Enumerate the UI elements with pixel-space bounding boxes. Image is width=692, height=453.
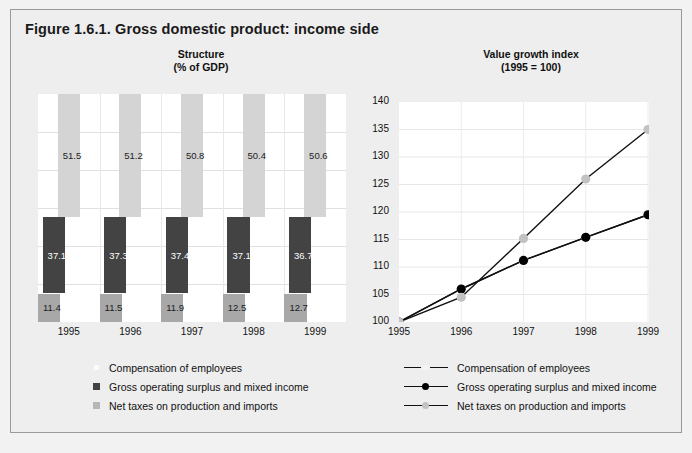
bar-value-label: 51.5 <box>58 150 82 161</box>
bar-segment: 36.7 <box>289 217 311 293</box>
legend-line-marker-icon <box>404 401 448 410</box>
right-panel-title-line2: (1995 = 100) <box>441 61 621 74</box>
figure-title: Figure 1.6.1. Gross domestic product: in… <box>25 21 379 37</box>
legend-item[interactable]: Gross operating surplus and mixed income <box>93 377 309 396</box>
bar-value-label: 37.1 <box>227 250 251 261</box>
legend-item[interactable]: Gross operating surplus and mixed income <box>404 377 657 396</box>
left-panel-title-line1: Structure <box>121 48 281 61</box>
y-axis-tick-label: 100 <box>355 315 389 326</box>
bar-value-label: 37.3 <box>104 250 128 261</box>
bar-segment: 51.2 <box>119 94 141 217</box>
x-axis-label: 1995 <box>38 326 100 337</box>
legend-item[interactable]: Compensation of employees <box>404 358 657 377</box>
y-axis-tick-label: 110 <box>355 260 389 271</box>
x-axis-label: 1995 <box>375 326 423 337</box>
legend-line-marker-icon <box>404 382 448 391</box>
legend-growth-index: Compensation of employeesGross operating… <box>404 358 657 415</box>
bar-value-label: 11.9 <box>161 302 184 313</box>
legend-structure: Compensation of employeesGross operating… <box>93 358 309 415</box>
y-axis-tick-label: 105 <box>355 288 389 299</box>
x-axis-label: 1999 <box>624 326 672 337</box>
bar-segment: 11.9 <box>161 294 183 323</box>
legend-item[interactable]: Net taxes on production and imports <box>93 396 309 415</box>
legend-item[interactable]: Net taxes on production and imports <box>404 396 657 415</box>
bar-segment: 12.5 <box>223 294 245 323</box>
legend-line-marker-icon <box>404 363 448 372</box>
bar-segment: 37.1 <box>43 217 65 293</box>
bar-value-label: 50.4 <box>243 150 267 161</box>
y-axis-tick-label: 130 <box>355 150 389 161</box>
bar-segment: 37.1 <box>227 217 249 293</box>
bar-value-label: 36.7 <box>289 250 313 261</box>
y-axis-tick-label: 115 <box>355 233 389 244</box>
data-point-marker <box>457 284 466 293</box>
bar-group: 51.237.311.5 <box>100 94 162 322</box>
legend-label: Gross operating surplus and mixed income <box>457 381 657 393</box>
data-point-marker <box>581 233 590 242</box>
x-axis-label: 1996 <box>437 326 485 337</box>
x-axis-label: 1996 <box>100 326 162 337</box>
y-axis-tick-label: 135 <box>355 123 389 134</box>
bar-segment: 37.3 <box>104 217 126 293</box>
legend-item[interactable]: Compensation of employees <box>93 358 309 377</box>
y-axis-tick-label: 125 <box>355 178 389 189</box>
left-panel-title: Structure (% of GDP) <box>121 48 281 74</box>
bar-value-label: 37.4 <box>166 250 190 261</box>
legend-label: Gross operating surplus and mixed income <box>109 381 309 393</box>
bar-value-label: 12.5 <box>223 302 247 313</box>
value-growth-line-chart <box>399 102 649 322</box>
data-point-marker <box>519 234 528 243</box>
bar-segment: 51.5 <box>58 94 80 217</box>
figure-frame: Figure 1.6.1. Gross domestic product: in… <box>10 9 682 433</box>
bar-group: 50.837.411.9 <box>161 94 223 322</box>
structure-bar-chart: 51.537.111.451.237.311.550.837.411.950.4… <box>38 94 346 322</box>
legend-label: Net taxes on production and imports <box>109 400 278 412</box>
bar-value-label: 51.2 <box>119 150 143 161</box>
bar-segment: 50.6 <box>304 94 326 217</box>
x-axis-label: 1998 <box>562 326 610 337</box>
legend-label: Net taxes on production and imports <box>457 400 626 412</box>
bar-segment: 11.4 <box>38 294 60 323</box>
data-point-marker <box>399 317 404 322</box>
y-axis-tick-label: 140 <box>355 95 389 106</box>
line-chart-svg <box>399 102 649 322</box>
bar-segment: 37.4 <box>166 217 188 293</box>
legend-swatch-icon <box>93 383 100 390</box>
bar-segment: 50.4 <box>243 94 265 217</box>
legend-dot-icon <box>422 402 429 409</box>
legend-dot-icon <box>421 365 430 370</box>
x-axis-label: 1999 <box>284 326 346 337</box>
bar-segment: 50.8 <box>181 94 203 217</box>
legend-swatch-icon <box>93 364 100 371</box>
bar-value-label: 50.6 <box>304 150 328 161</box>
bar-value-label: 11.4 <box>38 302 61 313</box>
bar-group: 50.437.112.5 <box>223 94 285 322</box>
right-panel-title-line1: Value growth index <box>441 48 621 61</box>
bar-value-label: 37.1 <box>43 250 67 261</box>
page-root: Figure 1.6.1. Gross domestic product: in… <box>0 0 692 453</box>
left-panel-title-line2: (% of GDP) <box>121 61 281 74</box>
data-point-marker <box>519 256 528 265</box>
bar-value-label: 12.7 <box>284 302 308 313</box>
right-panel-title: Value growth index (1995 = 100) <box>441 48 621 74</box>
bar-value-label: 50.8 <box>181 150 205 161</box>
x-axis-label: 1998 <box>223 326 285 337</box>
data-point-marker <box>581 174 590 183</box>
x-axis-label: 1997 <box>500 326 548 337</box>
legend-dot-icon <box>422 383 429 390</box>
bar-group: 51.537.111.4 <box>38 94 100 322</box>
bar-group: 50.636.712.7 <box>284 94 346 322</box>
data-point-marker <box>457 293 466 302</box>
legend-swatch-icon <box>93 402 100 409</box>
legend-label: Compensation of employees <box>457 362 590 374</box>
bar-value-label: 11.5 <box>100 302 123 313</box>
bar-segment: 12.7 <box>284 294 306 323</box>
bar-segment: 11.5 <box>100 294 122 323</box>
y-axis-tick-label: 120 <box>355 205 389 216</box>
x-axis-label: 1997 <box>161 326 223 337</box>
legend-label: Compensation of employees <box>109 362 242 374</box>
